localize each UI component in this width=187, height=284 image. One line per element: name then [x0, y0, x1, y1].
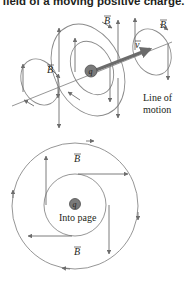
bottom-diagram: q Into page B B [12, 141, 138, 269]
field-label-b-3: B [160, 19, 166, 30]
into-page-label: Into page [59, 212, 97, 223]
velocity-label: v [135, 39, 140, 50]
magnetic-field-diagram: q B B B v Line of motion q Into page B B [0, 0, 187, 284]
field-label-b-top: B [74, 153, 80, 164]
top-diagram: q B B B v Line of motion [12, 12, 178, 128]
field-loop-right [126, 23, 179, 82]
line-of-motion-label-2: motion [143, 104, 171, 115]
field-label-b-bottom: B [74, 246, 80, 257]
charge-label-top: q [89, 67, 93, 76]
line-of-motion-label-1: Line of [143, 92, 173, 103]
field-label-b-2: B [104, 15, 110, 26]
charge-label-bottom: q [73, 200, 77, 209]
field-label-b-1: B [47, 64, 53, 75]
